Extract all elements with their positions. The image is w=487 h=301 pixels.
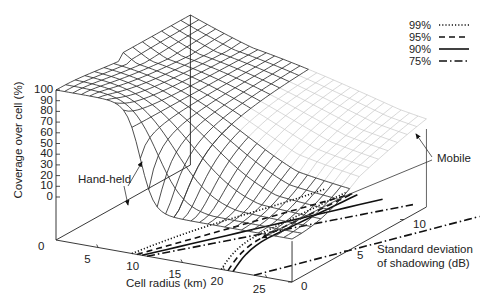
legend-item: 95% (409, 31, 471, 43)
x-tick-label: 5 (84, 254, 90, 266)
legend-line-dash-dot-icon (437, 57, 471, 65)
y-axis-label: Standard deviation of shadowing (dB) (377, 242, 487, 271)
legend-line-solid-icon (437, 45, 471, 53)
axes-box (56, 15, 426, 282)
legend-line-dashed-icon (437, 33, 471, 41)
surface-mesh-hidden (174, 69, 426, 239)
legend-label: 99% (409, 19, 437, 31)
x-tick-label: 20 (211, 276, 224, 288)
x-tick-label: 25 (253, 284, 266, 296)
annotation-arrows (124, 134, 432, 238)
y-axis-label-line1: Standard deviation (377, 242, 487, 256)
y-tick-label: 10 (413, 219, 426, 231)
legend-item: 75% (409, 55, 471, 67)
annotation-mobile: Mobile (437, 153, 471, 165)
legend-label: 75% (409, 55, 437, 67)
legend-line-dotted-icon (437, 21, 471, 29)
x-tick-label: 10 (126, 261, 139, 273)
annotation-hand-held: Hand-held (78, 174, 131, 186)
x-axis-label: Cell radius (km) (126, 278, 207, 290)
legend-item: 99% (409, 19, 471, 31)
legend-label: 90% (409, 43, 437, 55)
legend-label: 95% (409, 31, 437, 43)
z-axis-label: Coverage over cell (%) (12, 80, 24, 200)
y-tick-label: 5 (357, 250, 363, 262)
z-tick-label: 0 (34, 191, 53, 203)
floor-zero-label: 0 (38, 241, 44, 253)
legend-item: 90% (409, 43, 471, 55)
y-axis-label-line2: of shadowing (dB) (377, 256, 487, 270)
y-tick-label: 0 (301, 281, 307, 293)
